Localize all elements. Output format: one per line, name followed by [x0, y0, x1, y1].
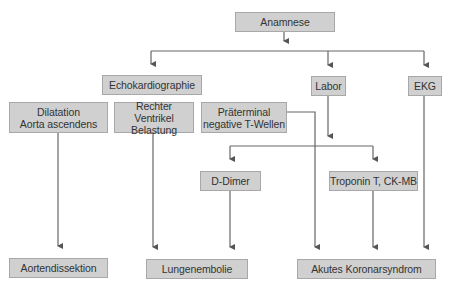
node-label: Lungenembolie [162, 263, 233, 275]
node-label-line1: Rechter Ventrikel [115, 100, 193, 124]
node-label-line1: Präterminal [218, 106, 271, 118]
node-label: Anamnese [260, 16, 309, 28]
node-label-line2: negative T-Wellen [203, 118, 285, 130]
node-labor: Labor [311, 76, 346, 96]
node-echokardiographie: Echokardiographie [102, 75, 202, 95]
node-label-line2: Aorta ascendens [20, 118, 97, 130]
node-label: Akutes Koronarsyndrom [311, 263, 422, 275]
node-label: D-Dimer [211, 175, 249, 187]
node-label-line1: Dilatation [37, 106, 80, 118]
node-lungenembolie: Lungenembolie [146, 259, 248, 279]
arrow-praeterminal-to-akutes [287, 112, 315, 247]
node-troponin: Troponin T, CK-MB [329, 171, 418, 191]
flowchart-canvas: Anamnese Echokardiographie Labor EKG Dil… [0, 0, 451, 287]
node-dilatation: Dilatation Aorta ascendens [9, 102, 108, 133]
node-label: EKG [414, 80, 436, 92]
node-ekg: EKG [408, 76, 442, 96]
node-aortendissektion: Aortendissektion [9, 258, 108, 278]
node-praeterminal: Präterminal negative T-Wellen [201, 102, 287, 133]
node-ddimer: D-Dimer [200, 171, 261, 191]
node-anamnese: Anamnese [235, 12, 335, 32]
node-label-line2: Belastung [131, 124, 177, 136]
node-label: Aortendissektion [20, 262, 96, 274]
node-rechter-ventrikel: Rechter Ventrikel Belastung [114, 102, 194, 133]
node-akutes-koronarsyndrom: Akutes Koronarsyndrom [297, 259, 436, 279]
connector-lines [0, 0, 451, 287]
node-label: Troponin T, CK-MB [330, 175, 417, 187]
node-label: Labor [315, 80, 341, 92]
node-label: Echokardiographie [109, 79, 195, 91]
